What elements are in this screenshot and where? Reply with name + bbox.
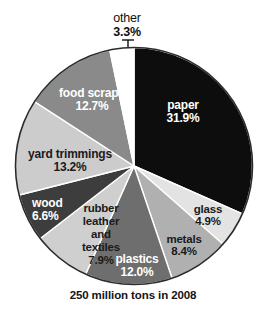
- pie-slices: [15, 48, 252, 285]
- other-leader-line: [122, 40, 134, 47]
- chart-caption: 250 million tons in 2008: [0, 289, 266, 301]
- pie-chart-graphic: [0, 0, 266, 312]
- pie-chart-figure: other 3.3% paper 31.9% glass 4.9% metals…: [0, 0, 266, 312]
